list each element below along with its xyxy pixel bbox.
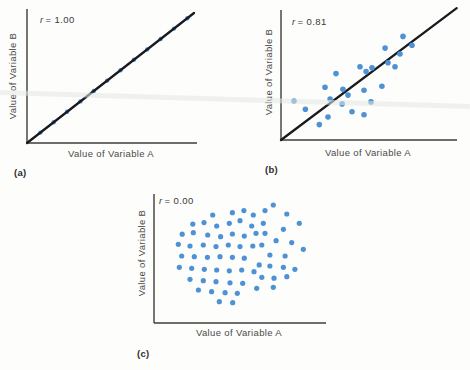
scatter-plot-a	[19, 5, 205, 151]
y-axis-label-c: Value of Variable B	[136, 210, 147, 297]
panel-letter-c: (c)	[137, 348, 150, 359]
x-axis-label-c: Value of Variable A	[154, 327, 324, 338]
y-axis-label-a: Value of Variable B	[7, 33, 18, 120]
scatter-plot-c	[146, 186, 334, 331]
x-axis-label-b: Value of Variable A	[281, 147, 455, 158]
panel-letter-b: (b)	[265, 164, 278, 175]
scatter-plot-b	[273, 2, 465, 148]
panel-letter-a: (a)	[14, 167, 27, 178]
x-axis-label-a: Value of Variable A	[27, 148, 195, 159]
y-axis-label-b: Value of Variable B	[263, 29, 274, 116]
